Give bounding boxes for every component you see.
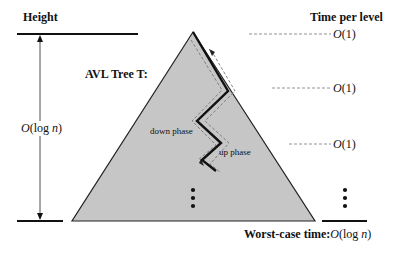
tree-title: AVL Tree T: [85, 67, 148, 82]
height-bound: O(log n) [20, 121, 63, 136]
tree-ellipsis-dot [191, 188, 195, 192]
up-phase-label: up phase [219, 147, 251, 157]
tree-ellipsis-dot [191, 196, 195, 200]
time-ellipsis-dot [343, 188, 347, 192]
down-phase-label: down phase [150, 126, 193, 136]
time-ellipsis-dot [343, 196, 347, 200]
avl-tree-triangle [72, 32, 315, 221]
time-level-3: O(1) [333, 137, 356, 152]
time-per-level-heading: Time per level [310, 10, 383, 25]
time-level-1: O(1) [333, 27, 356, 42]
tree-ellipsis-dot [191, 204, 195, 208]
worst-case-label: Worst-case time: [244, 227, 330, 241]
height-heading: Height [23, 10, 58, 25]
time-level-2: O(1) [333, 81, 356, 96]
worst-case-time: Worst-case time:O(log n) [244, 227, 371, 242]
time-ellipsis-dot [343, 204, 347, 208]
arrow-down-head [37, 213, 43, 220]
arrow-up-head [37, 35, 43, 42]
